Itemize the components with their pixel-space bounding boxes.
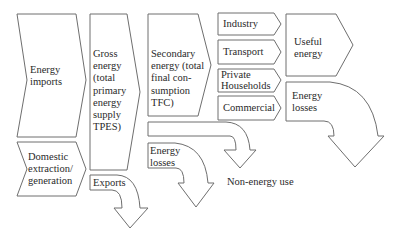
sector-commercial-label: Commercial (223, 102, 275, 114)
gross-energy-label: Gross energy (total primary energy suppl… (93, 48, 126, 133)
secondary-losses-label: Energy losses (150, 145, 180, 169)
domestic-extraction-label: Domestic extraction/ generation (28, 151, 73, 188)
energy-flow-diagram (0, 0, 394, 241)
sector-transport-label: Transport (223, 46, 263, 58)
useful-energy-label: Useful energy (294, 36, 322, 60)
sector-industry-label: Industry (223, 18, 258, 30)
energy-imports-label: Energy imports (30, 64, 62, 88)
exports-label: Exports (93, 177, 126, 189)
secondary-energy-label: Secondary energy (total final con- sumpt… (151, 48, 204, 109)
final-losses-label: Energy losses (292, 90, 322, 114)
non-energy-use-label: Non-energy use (227, 176, 294, 188)
sector-private-households-label: Private Households (221, 69, 271, 91)
